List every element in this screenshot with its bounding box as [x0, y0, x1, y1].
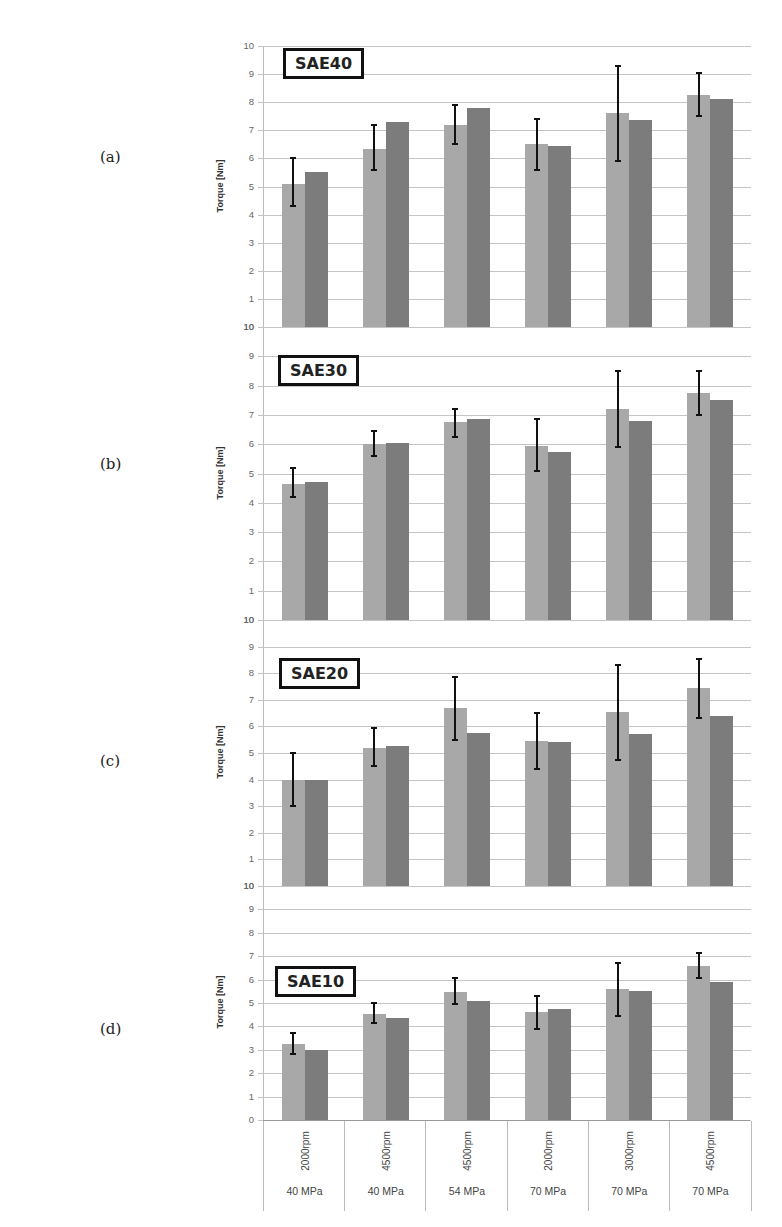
bar-series2 — [386, 746, 409, 886]
error-bar-cap — [290, 1053, 296, 1055]
error-bar-cap — [452, 436, 458, 438]
error-bar-cap — [290, 805, 296, 807]
error-bar-cap — [696, 658, 702, 660]
error-bar-cap — [696, 717, 702, 719]
error-bar-cap — [696, 952, 702, 954]
bar-series2 — [467, 733, 490, 886]
gridline — [258, 1050, 751, 1051]
bar-series2 — [467, 1001, 490, 1120]
gridline — [258, 415, 751, 416]
y-tick-label: 7 — [234, 124, 254, 135]
y-tick-label: 5 — [234, 747, 254, 758]
bar-series2 — [386, 1018, 409, 1120]
error-bar — [373, 431, 375, 456]
gridline — [258, 859, 751, 860]
bar-series1 — [444, 125, 467, 327]
x-rpm-label: 4500rpm — [461, 1131, 472, 1170]
y-tick-label: 8 — [234, 380, 254, 391]
chart-panel-sae10: 012345678910Torque [Nm] — [263, 886, 751, 1120]
error-bar-cap — [534, 1028, 540, 1030]
gridline — [258, 1026, 751, 1027]
y-tick-label: 9 — [234, 903, 254, 914]
gridline — [258, 444, 751, 445]
y-tick-label: 3 — [234, 800, 254, 811]
x-category-cell: 4500rpm70 MPa — [669, 1121, 752, 1211]
gridline — [258, 620, 751, 621]
bar-series2 — [710, 99, 733, 327]
x-rpm-label: 2000rpm — [543, 1131, 554, 1170]
error-bar-cap — [696, 977, 702, 979]
error-bar-cap — [371, 430, 377, 432]
bar-series1 — [525, 144, 548, 327]
y-tick-label: 7 — [234, 409, 254, 420]
gridline — [258, 243, 751, 244]
error-bar-cap — [371, 727, 377, 729]
bar-series2 — [467, 419, 490, 620]
panel-letter-a: (a) — [100, 148, 121, 166]
gridline — [258, 780, 751, 781]
x-category-cell: 4500rpm54 MPa — [425, 1121, 507, 1211]
y-tick-label: 1 — [234, 585, 254, 596]
x-pressure-label: 40 MPa — [345, 1185, 426, 1197]
y-tick-label: 4 — [234, 497, 254, 508]
gridline — [258, 591, 751, 592]
gridline — [258, 1073, 751, 1074]
y-tick-label: 4 — [234, 1020, 254, 1031]
gridline — [258, 215, 751, 216]
x-pressure-label: 70 MPa — [508, 1185, 589, 1197]
gridline — [258, 956, 751, 957]
gridline — [258, 833, 751, 834]
error-bar — [698, 659, 700, 719]
y-tick-label: 3 — [234, 1044, 254, 1055]
bar-series2 — [548, 452, 571, 620]
gridline — [258, 886, 751, 887]
error-bar — [292, 468, 294, 497]
bar-series2 — [629, 991, 652, 1120]
y-tick-label: 5 — [234, 181, 254, 192]
error-bar — [536, 119, 538, 170]
gridline — [258, 806, 751, 807]
gridline — [258, 561, 751, 562]
error-bar — [617, 963, 619, 1016]
gridline — [258, 532, 751, 533]
error-bar-cap — [696, 370, 702, 372]
error-bar-cap — [371, 765, 377, 767]
error-bar — [454, 978, 456, 1004]
bar-series1 — [444, 992, 467, 1120]
bar-series2 — [386, 443, 409, 620]
x-rpm-label: 4500rpm — [705, 1131, 716, 1170]
error-bar-cap — [371, 124, 377, 126]
bar-series1 — [687, 966, 710, 1120]
x-category-cell: 2000rpm40 MPa — [263, 1121, 345, 1211]
gridline — [258, 909, 751, 910]
bar-series2 — [629, 120, 652, 327]
error-bar — [373, 1003, 375, 1023]
gridline — [258, 299, 751, 300]
bar-series2 — [629, 734, 652, 886]
error-bar — [292, 1033, 294, 1054]
error-bar-cap — [452, 408, 458, 410]
error-bar-cap — [615, 65, 621, 67]
error-bar-cap — [696, 115, 702, 117]
y-tick-label: 9 — [234, 641, 254, 652]
y-tick-label: 10 — [234, 880, 254, 891]
error-bar-cap — [615, 664, 621, 666]
error-bar-cap — [290, 1032, 296, 1034]
bar-series2 — [710, 982, 733, 1120]
x-rpm-label: 3000rpm — [624, 1131, 635, 1170]
y-axis-title: Torque [Nm] — [215, 446, 225, 499]
error-bar — [698, 73, 700, 117]
y-tick-label: 4 — [234, 209, 254, 220]
oil-grade-label: SAE10 — [275, 966, 356, 997]
gridline — [258, 158, 751, 159]
error-bar — [373, 125, 375, 170]
error-bar-cap — [696, 414, 702, 416]
bar-series1 — [363, 149, 386, 327]
error-bar-cap — [371, 1002, 377, 1004]
error-bar-cap — [452, 104, 458, 106]
oil-grade-label: SAE30 — [278, 355, 359, 386]
error-bar-cap — [615, 160, 621, 162]
error-bar — [292, 158, 294, 206]
bar-series1 — [444, 422, 467, 620]
error-bar-cap — [290, 496, 296, 498]
